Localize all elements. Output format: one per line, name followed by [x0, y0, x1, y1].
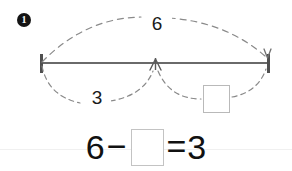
worksheet-page: 1 6 3 6 − = 3 — [0, 0, 292, 171]
left-part-arc-segment-b — [110, 71, 153, 101]
equation-answer-box[interactable] — [131, 129, 164, 166]
equation-result: 3 — [187, 130, 206, 164]
left-part-arc-segment-a — [42, 66, 80, 103]
total-arc-right-segment — [169, 18, 265, 56]
total-arc-left-segment — [42, 17, 141, 62]
unknown-part-answer-box[interactable] — [203, 85, 230, 113]
known-part-value-label: 3 — [83, 87, 111, 108]
equals-sign-icon: = — [166, 129, 188, 163]
right-part-arc-segment-a — [158, 71, 201, 99]
total-value-label: 6 — [142, 13, 172, 34]
equation-row: 6 − = 3 — [0, 122, 292, 171]
equation-minuend: 6 — [86, 130, 105, 164]
minus-sign-icon: − — [105, 129, 129, 163]
right-part-arc-segment-b — [232, 69, 266, 97]
